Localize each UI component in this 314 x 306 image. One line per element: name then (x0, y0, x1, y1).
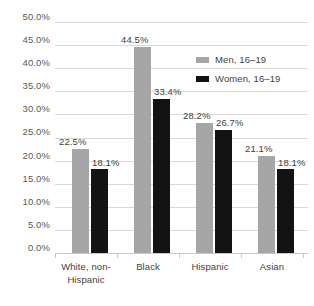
bar-value-men-black: 44.5% (121, 34, 148, 45)
bar-men-hispanic (196, 123, 213, 253)
y-tick-35: 35.0% (23, 81, 50, 91)
x-label-black: Black (117, 261, 179, 274)
bar-value-women-black: 33.4% (154, 86, 181, 97)
x-label-white: White, non-Hispanic (55, 261, 117, 286)
y-tick-10: 10.0% (23, 197, 50, 207)
x-tick-2 (179, 253, 180, 258)
bar-men-white (72, 149, 89, 253)
legend-label-men: Men, 16–19 (215, 54, 266, 65)
y-tick-40: 40.0% (23, 58, 50, 68)
x-tick-0 (55, 253, 56, 258)
bar-value-women-asian: 18.1% (278, 157, 305, 168)
bar-value-women-hispanic: 26.7% (216, 117, 243, 128)
x-label-hispanic: Hispanic (179, 261, 241, 274)
legend-swatch-icon-women (196, 76, 209, 82)
y-tick-5: 5.0% (28, 220, 50, 230)
legend-item-men: Men, 16–19 (196, 50, 280, 69)
bar-value-men-hispanic: 28.2% (183, 110, 210, 121)
x-label-asian: Asian (241, 261, 303, 274)
x-tick-3 (241, 253, 242, 258)
bar-women-white (91, 169, 108, 253)
legend-item-women: Women, 16–19 (196, 69, 280, 88)
legend-swatch-icon-men (196, 57, 209, 63)
y-tick-20: 20.0% (23, 151, 50, 161)
gridline-25 (55, 138, 308, 139)
y-tick-30: 30.0% (23, 104, 50, 114)
gridline-35 (55, 91, 308, 92)
gridline-50 (55, 22, 308, 23)
bar-women-black (153, 99, 170, 253)
bar-chart: 22.5% 18.1% 44.5% 33.4% 28.2% 26.7% 21.1… (0, 0, 314, 306)
bar-value-men-white: 22.5% (59, 136, 86, 147)
y-tick-45: 45.0% (23, 35, 50, 45)
legend-label-women: Women, 16–19 (215, 73, 280, 84)
gridline-45 (55, 45, 308, 46)
y-tick-15: 15.0% (23, 174, 50, 184)
bar-women-asian (277, 169, 294, 253)
bar-value-women-white: 18.1% (92, 157, 119, 168)
y-tick-0: 0.0% (28, 243, 50, 253)
bar-men-black (134, 47, 151, 253)
bar-women-hispanic (215, 130, 232, 253)
legend: Men, 16–19 Women, 16–19 (196, 50, 280, 88)
axis-baseline (55, 253, 308, 254)
x-tick-1 (117, 253, 118, 258)
x-tick-4 (303, 253, 304, 258)
y-tick-25: 25.0% (23, 127, 50, 137)
gridline-30 (55, 114, 308, 115)
bar-men-asian (258, 156, 275, 254)
bar-value-men-asian: 21.1% (245, 143, 272, 154)
y-tick-50: 50.0% (23, 12, 50, 22)
